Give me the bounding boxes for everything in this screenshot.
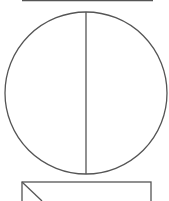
geometry-diagram [0,0,169,201]
bottom-rectangle [22,182,151,201]
bottom-rectangle-diagonal [22,182,42,201]
